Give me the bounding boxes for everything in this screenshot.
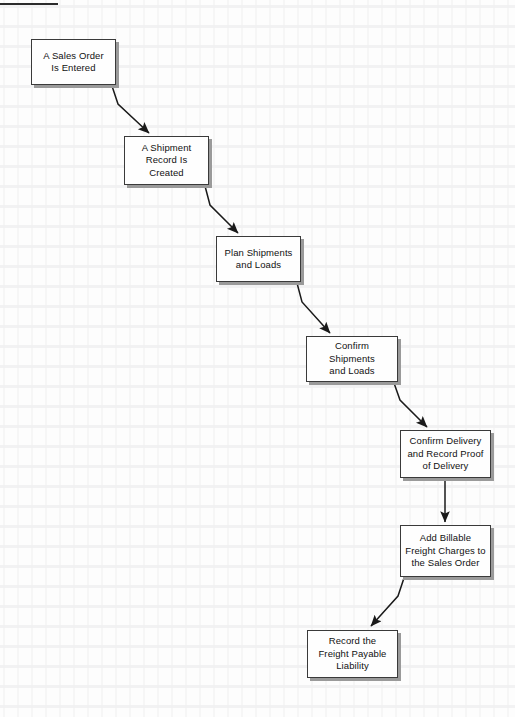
flow-node-add-billable-freight-charges[interactable]: Add Billable Freight Charges to the Sale…: [400, 525, 491, 577]
flow-node-sales-order-entered[interactable]: A Sales Order Is Entered: [31, 39, 116, 85]
flow-node-label: A Sales Order Is Entered: [39, 50, 107, 75]
flow-node-label: Confirm Delivery and Record Proof of Del…: [403, 435, 487, 473]
flow-node-label: Add Billable Freight Charges to the Sale…: [401, 532, 489, 570]
connector-1-2: [112, 86, 149, 133]
flow-node-label: Record the Freight Payable Liability: [314, 635, 390, 673]
connector-4-5: [394, 383, 427, 427]
flow-node-record-freight-payable-liability[interactable]: Record the Freight Payable Liability: [307, 630, 398, 678]
flowchart-connectors: [0, 0, 515, 717]
flow-node-confirm-delivery-proof[interactable]: Confirm Delivery and Record Proof of Del…: [400, 430, 491, 478]
connector-2-3: [205, 186, 238, 233]
top-horizontal-rule: [0, 3, 58, 5]
flow-node-plan-shipments-loads[interactable]: Plan Shipments and Loads: [216, 236, 301, 282]
flow-node-label: Plan Shipments and Loads: [221, 247, 297, 272]
flow-node-shipment-record-created[interactable]: A Shipment Record Is Created: [124, 136, 209, 185]
flow-node-confirm-shipments-loads[interactable]: Confirm Shipments and Loads: [306, 336, 398, 382]
connector-6-7: [371, 578, 404, 626]
connector-3-4: [297, 283, 330, 333]
flow-node-label: A Shipment Record Is Created: [138, 142, 196, 180]
flow-node-label: Confirm Shipments and Loads: [307, 340, 397, 378]
